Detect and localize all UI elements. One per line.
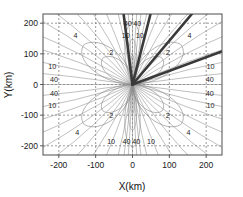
contour-value-label: 40 xyxy=(132,137,140,146)
contour-value-label: 2 xyxy=(109,48,113,57)
contour-value-label: 10 xyxy=(48,101,56,110)
contour-value-label: 2 xyxy=(109,111,113,120)
x-tick-label: 100 xyxy=(162,160,176,170)
contour-value-label: 40 xyxy=(50,89,58,98)
y-tick-label: 100 xyxy=(24,49,38,59)
figure-container: -200-1000100200-200-1000100200 424040101… xyxy=(0,0,243,197)
contour-value-label: 2 xyxy=(166,48,170,57)
contour-value-label: 40 xyxy=(206,89,214,98)
contour-value-label: 40 xyxy=(50,75,58,84)
contour-value-label: 10 xyxy=(122,31,130,40)
contour-value-label: 40 xyxy=(123,137,131,146)
contour-value-label: 4 xyxy=(75,128,79,137)
contour-value-label: 4 xyxy=(186,128,190,137)
x-axis-title: X(km) xyxy=(119,181,146,192)
y-tick-label: -100 xyxy=(21,110,38,120)
y-tick-label: 200 xyxy=(24,18,38,28)
contour-value-label: 10 xyxy=(147,137,155,146)
contour-value-label: 10 xyxy=(207,62,215,71)
x-tick-label: 200 xyxy=(199,160,213,170)
contour-value-label: 4 xyxy=(188,31,192,40)
contour-value-label: 10 xyxy=(207,101,215,110)
contour-value-label: 10 xyxy=(48,62,56,71)
x-tick-label: -100 xyxy=(87,160,104,170)
x-tick-label: 0 xyxy=(130,160,135,170)
y-tick-label: 0 xyxy=(33,80,38,90)
contour-value-label: 4 xyxy=(73,31,77,40)
contour-value-label: 10 xyxy=(136,31,144,40)
contour-value-label: 2 xyxy=(166,111,170,120)
y-tick-label: -200 xyxy=(21,141,38,151)
contour-plot: -200-1000100200-200-1000100200 424040101… xyxy=(0,0,243,197)
y-axis-title: Y(km) xyxy=(3,72,14,99)
x-tick-label: -200 xyxy=(50,160,67,170)
contour-value-label: 40 xyxy=(133,19,141,28)
contour-value-label: 10 xyxy=(107,137,115,146)
contour-value-label: 40 xyxy=(206,75,214,84)
contour-value-label: 40 xyxy=(124,19,132,28)
